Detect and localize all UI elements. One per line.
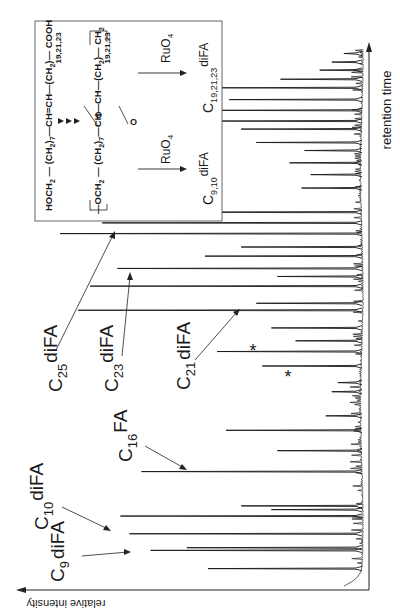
epoxy-oxygen: O (130, 117, 137, 127)
asterisk-marker: * (249, 341, 256, 361)
arrow-c16 (145, 446, 184, 468)
svg-text:C21diFA: C21diFA (173, 321, 198, 390)
x-axis-label: retention time (379, 71, 394, 150)
chromatogram-figure: retention time relative intensity C9diFA… (0, 0, 400, 616)
arrow-c23 (122, 276, 130, 356)
peak (332, 60, 362, 64)
peak (226, 428, 362, 432)
peak (241, 245, 362, 249)
asterisk-marker: * (284, 367, 291, 387)
peak (205, 254, 362, 258)
arrow-c21 (195, 312, 237, 360)
peak (344, 51, 362, 55)
arrow-head-icon (103, 525, 111, 531)
arrow-head-icon (179, 464, 187, 470)
inset-reaction-scheme: HOCH2 — (CH2)7—CH=CH—(CH2)— COOH 19,21,2… (35, 20, 222, 221)
peak (338, 380, 362, 384)
peak (296, 339, 362, 343)
peak (271, 507, 362, 511)
peak (256, 140, 362, 144)
peak (277, 448, 362, 452)
peak (241, 127, 362, 131)
labeled-peak (129, 532, 362, 536)
peak (208, 566, 362, 570)
epoxy-oxygen: O (95, 110, 102, 120)
arrow-c9 (82, 552, 128, 556)
peak (217, 86, 362, 90)
labeled-peak (60, 231, 362, 235)
label-c25-difa: C25diFA (40, 324, 70, 392)
labeled-peak (142, 469, 362, 473)
inset-subscript-repeat: 19,21,23 (54, 32, 63, 64)
arrow-head-icon (127, 272, 133, 280)
peak (305, 148, 362, 152)
peak (229, 97, 362, 101)
labeled-peak (117, 266, 362, 270)
labeled-peak (151, 548, 362, 552)
labeled-peak (217, 349, 362, 353)
peak (241, 504, 362, 508)
peak (205, 119, 362, 123)
label-c23-difa: C23diFA (96, 324, 126, 392)
labeled-peak (78, 308, 362, 312)
peak (326, 414, 362, 418)
label-c21-difa: C21diFA (173, 321, 198, 390)
peak (90, 284, 362, 288)
labeled-peak (262, 364, 362, 368)
peak (120, 514, 362, 518)
peak (187, 545, 362, 549)
svg-text:C10diFA: C10diFA (26, 462, 56, 530)
svg-text:C25diFA: C25diFA (40, 324, 70, 392)
peak (280, 77, 362, 81)
y-axis-arrow-icon (16, 587, 26, 593)
inset-subscript-repeat: 19,21,23 (103, 32, 112, 64)
peak (271, 326, 362, 330)
peak (290, 161, 362, 165)
peak-labels: C9diFA C10diFA C16FA C21diFA C23diFA C25… (26, 231, 292, 582)
arrow-head-icon (109, 231, 115, 239)
peak (332, 390, 362, 394)
peak (311, 172, 362, 176)
arrow-c10 (62, 507, 108, 529)
label-c16-fa: C16FA (110, 409, 140, 462)
peak (302, 186, 362, 190)
x-axis-arrow-icon (366, 42, 372, 52)
peak (256, 301, 362, 305)
label-c10-difa: C10diFA (26, 462, 56, 530)
svg-text:C23diFA: C23diFA (96, 324, 126, 392)
peak (277, 274, 362, 278)
y-axis-label: relative intensity (26, 598, 105, 610)
arrow-head-icon (124, 549, 131, 555)
svg-text:C16FA: C16FA (110, 409, 140, 462)
peak (211, 108, 362, 112)
